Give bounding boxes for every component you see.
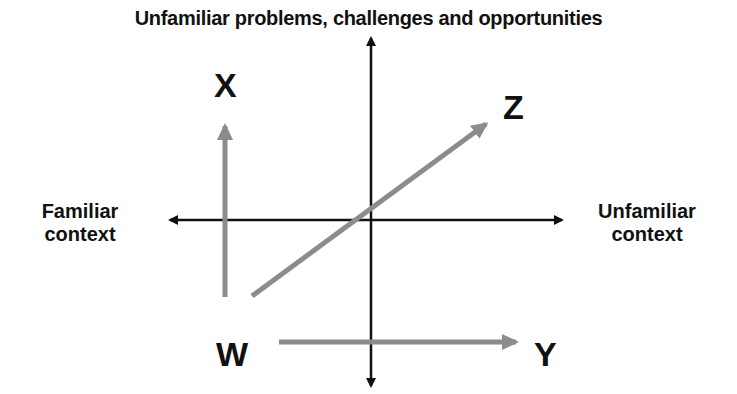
point-label-z: Z <box>503 88 524 127</box>
familiar-context-line1: Familiar <box>20 200 140 223</box>
vector-w-to-z <box>252 124 486 296</box>
familiar-context-label: Familiar context <box>20 200 140 246</box>
point-label-y: Y <box>534 335 557 374</box>
unfamiliar-context-line2: context <box>577 223 717 246</box>
familiar-context-line2: context <box>20 223 140 246</box>
unfamiliar-context-line1: Unfamiliar <box>577 200 717 223</box>
diagram-title: Unfamiliar problems, challenges and oppo… <box>0 7 737 30</box>
unfamiliar-context-label: Unfamiliar context <box>577 200 717 246</box>
point-label-w: W <box>216 335 248 374</box>
point-label-x: X <box>214 66 237 105</box>
diagram-canvas: Unfamiliar problems, challenges and oppo… <box>0 0 737 394</box>
diagram-graphics <box>0 0 737 394</box>
